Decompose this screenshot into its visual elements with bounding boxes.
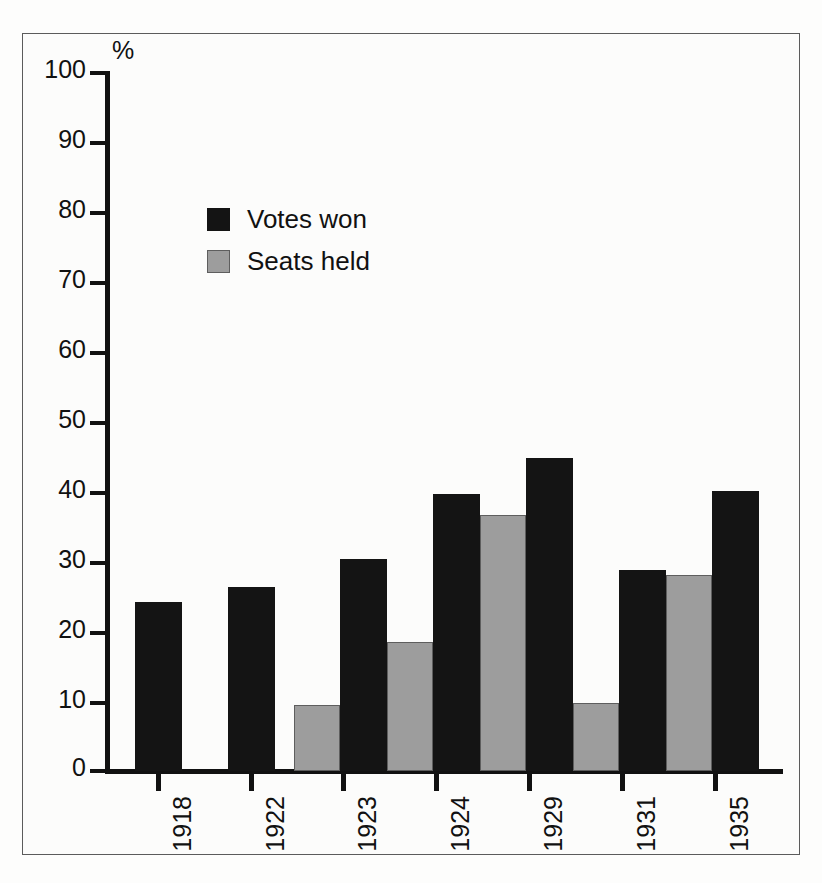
x-tick-label-1922: 1922 (263, 796, 288, 852)
x-tick-1929 (527, 773, 532, 791)
y-tick-0 (90, 769, 106, 773)
bar-votes-1924 (433, 494, 480, 771)
x-tick-1935 (713, 773, 718, 791)
y-tick-20 (90, 631, 106, 635)
bar-chart-plot-area: % 100 90 80 70 60 50 40 30 20 10 0 1918 (0, 0, 822, 883)
bar-votes-1931 (619, 570, 666, 771)
y-tick-label-60: 60 (30, 337, 86, 362)
y-tick-label-10: 10 (30, 687, 86, 712)
x-tick-label-1918: 1918 (170, 796, 195, 852)
x-tick-label-1923: 1923 (355, 796, 380, 852)
y-tick-label-100: 100 (30, 57, 86, 82)
y-tick-90 (90, 141, 106, 145)
black-square-icon (207, 208, 230, 231)
y-tick-100 (90, 71, 106, 75)
x-tick-label-1924: 1924 (448, 796, 473, 852)
y-tick-10 (90, 701, 106, 705)
gray-square-icon (207, 250, 230, 273)
y-tick-label-30: 30 (30, 547, 86, 572)
chart-legend: Votes won Seats held (207, 198, 370, 282)
chart-figure: % 100 90 80 70 60 50 40 30 20 10 0 1918 (0, 0, 822, 883)
bar-votes-1918 (135, 602, 182, 771)
y-tick-label-0: 0 (30, 755, 86, 780)
x-tick-label-1935: 1935 (727, 796, 752, 852)
y-tick-70 (90, 281, 106, 285)
bar-seats-1923 (294, 705, 340, 771)
x-tick-label-1929: 1929 (541, 796, 566, 852)
bar-votes-1935 (712, 491, 759, 771)
x-tick-label-1931: 1931 (634, 796, 659, 852)
legend-label-seats-held: Seats held (247, 248, 370, 274)
y-tick-label-90: 90 (30, 127, 86, 152)
y-tick-label-40: 40 (30, 477, 86, 502)
bar-votes-1929 (526, 458, 573, 771)
y-tick-30 (90, 561, 106, 565)
bar-seats-1929 (480, 515, 526, 771)
y-tick-label-50: 50 (30, 407, 86, 432)
bar-votes-1922 (228, 587, 275, 771)
bar-votes-1923 (340, 559, 387, 771)
x-tick-1922 (249, 773, 254, 791)
x-tick-1924 (434, 773, 439, 791)
y-axis-unit-label: % (112, 38, 134, 63)
y-tick-40 (90, 491, 106, 495)
y-tick-50 (90, 421, 106, 425)
bar-seats-1931 (573, 703, 619, 771)
y-tick-80 (90, 211, 106, 215)
x-tick-1931 (620, 773, 625, 791)
legend-item-seats-held: Seats held (207, 240, 370, 282)
x-tick-1918 (156, 773, 161, 791)
bar-seats-1924 (387, 642, 433, 771)
legend-item-votes-won: Votes won (207, 198, 370, 240)
bar-seats-1935 (666, 575, 712, 771)
y-tick-label-20: 20 (30, 617, 86, 642)
y-tick-label-70: 70 (30, 267, 86, 292)
y-tick-label-80: 80 (30, 197, 86, 222)
x-tick-1923 (341, 773, 346, 791)
y-tick-60 (90, 351, 106, 355)
legend-label-votes-won: Votes won (247, 206, 367, 232)
